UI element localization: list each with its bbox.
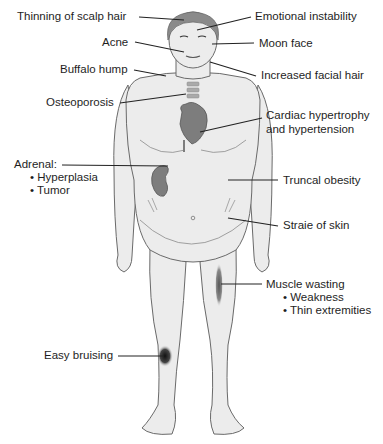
vertebrae-icon	[187, 82, 199, 98]
label-emotional-instability: Emotional instability	[255, 10, 357, 23]
label-buffalo-hump: Buffalo hump	[60, 63, 128, 76]
label-moon-face: Moon face	[259, 37, 313, 50]
muscle-wasting-mark	[215, 263, 223, 307]
label-cardiac-line1: Cardiac hypertrophy	[266, 109, 370, 122]
torso	[126, 72, 260, 262]
label-muscle-wasting: Muscle wasting	[266, 278, 345, 291]
label-truncal-obesity: Truncal obesity	[283, 174, 361, 187]
label-adrenal-tumor: • Tumor	[30, 184, 70, 197]
left-leg	[142, 245, 186, 434]
label-acne: Acne	[102, 36, 128, 49]
label-increased-facial-hair: Increased facial hair	[261, 69, 364, 82]
label-straie-of-skin: Straie of skin	[283, 219, 349, 232]
label-cardiac-line2: and hypertension	[266, 123, 354, 136]
label-thinning-scalp-hair: Thinning of scalp hair	[17, 10, 126, 23]
label-muscle-weakness: • Weakness	[283, 291, 344, 304]
label-adrenal-hyperplasia: • Hyperplasia	[30, 171, 98, 184]
label-easy-bruising: Easy bruising	[44, 349, 113, 362]
label-osteoporosis: Osteoporosis	[46, 96, 114, 109]
label-muscle-thin-extremities: • Thin extremities	[283, 304, 371, 317]
label-adrenal: Adrenal:	[14, 158, 57, 171]
